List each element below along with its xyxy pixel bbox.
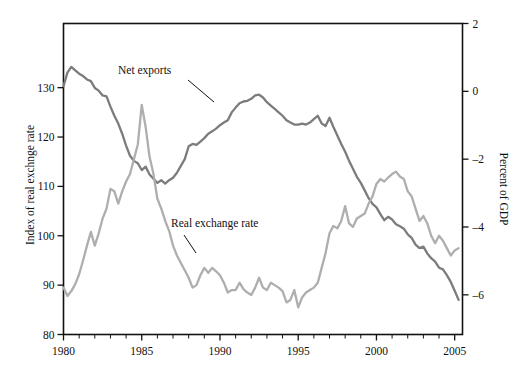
y-tick-label-left: 80 xyxy=(43,329,55,341)
annotation-label-net-exports: Net exports xyxy=(118,64,172,77)
y-tick-label-right: –4 xyxy=(472,221,485,233)
y-tick-label-left: 130 xyxy=(37,82,55,94)
y-tick-label-right: –2 xyxy=(472,153,485,165)
y-axis-title-right: Percent of GDP xyxy=(498,153,510,226)
x-tick-label: 1995 xyxy=(287,345,310,357)
x-tick-label: 1985 xyxy=(130,345,153,357)
y-tick-label-right: –6 xyxy=(472,289,485,301)
chart-background xyxy=(0,0,521,379)
exchange-rate-net-exports-chart: 198019851990199520002005 809010011012013… xyxy=(0,0,521,379)
x-tick-label: 1980 xyxy=(52,345,75,357)
x-tick-label: 1990 xyxy=(208,345,231,357)
y-tick-label-left: 110 xyxy=(38,180,55,192)
x-tick-label: 2005 xyxy=(443,345,466,357)
x-tick-label: 2000 xyxy=(365,345,388,357)
y-tick-label-right: 0 xyxy=(473,85,479,97)
y-tick-label-left: 100 xyxy=(37,230,55,242)
y-tick-label-left: 90 xyxy=(43,279,55,291)
y-tick-label-left: 120 xyxy=(37,131,55,143)
y-axis-title-left: Index of real exchnge rate xyxy=(24,125,37,245)
chart-figure: 198019851990199520002005 809010011012013… xyxy=(0,0,521,379)
annotation-label-real-exchange-rate: Real exchange rate xyxy=(171,217,258,230)
y-tick-label-right: 2 xyxy=(473,18,479,30)
